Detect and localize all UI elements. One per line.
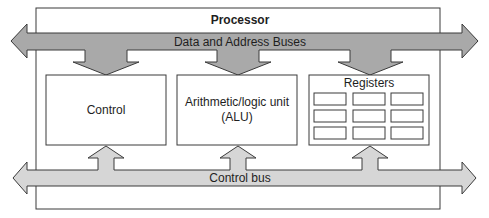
processor-title: Processor (200, 13, 280, 27)
register-cell (314, 93, 346, 105)
alu-label-line1: Arithmetic/logic unit (177, 95, 297, 110)
processor-diagram: Processor Data and Address Buses Control… (0, 0, 489, 218)
data-address-bus-label: Data and Address Buses (160, 35, 320, 49)
control-bus-label: Control bus (190, 171, 290, 185)
control-unit-label: Control (46, 103, 166, 118)
register-cell (314, 110, 346, 122)
register-cell (391, 127, 423, 139)
registers-label: Registers (309, 76, 429, 91)
register-cell (353, 127, 385, 139)
register-cell (391, 110, 423, 122)
alu-label-line2: (ALU) (177, 110, 297, 125)
register-cell (353, 93, 385, 105)
register-cell (314, 127, 346, 139)
register-grid (314, 93, 423, 139)
register-cell (353, 110, 385, 122)
register-cell (391, 93, 423, 105)
